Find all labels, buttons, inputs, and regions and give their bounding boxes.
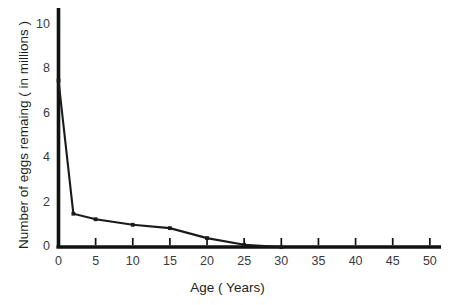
data-point-marker (242, 243, 246, 247)
chart-container: 0246810 05101520253035404550 Age ( Years… (0, 0, 455, 305)
x-axis-title: Age ( Years) (0, 280, 455, 295)
y-tick-label: 4 (28, 150, 50, 164)
series-line (59, 81, 282, 248)
x-tick-label: 0 (44, 254, 74, 268)
x-tick-label: 5 (81, 254, 111, 268)
data-point-marker (71, 212, 75, 216)
y-tick-label: 8 (28, 61, 50, 75)
x-tick-label: 35 (303, 254, 333, 268)
data-series-eggs-remaining (57, 79, 284, 249)
y-axis-title: Number of eggs remaing ( in millions ) (16, 21, 31, 249)
x-tick-label: 45 (378, 254, 408, 268)
data-point-marker (57, 79, 61, 83)
x-tick-label: 30 (266, 254, 296, 268)
x-tick-label: 25 (229, 254, 259, 268)
y-tick-label: 2 (28, 195, 50, 209)
y-tick-label: 6 (28, 106, 50, 120)
x-tick-label: 10 (118, 254, 148, 268)
data-point-marker (131, 223, 135, 227)
data-point-marker (168, 226, 172, 230)
data-point-marker (279, 245, 283, 249)
x-tick-label: 20 (192, 254, 222, 268)
y-tick-label: 10 (28, 17, 50, 31)
y-tick-label: 0 (28, 239, 50, 253)
x-tick-label: 15 (155, 254, 185, 268)
data-point-marker (205, 236, 209, 240)
axis-group (57, 8, 442, 248)
series-markers (57, 79, 284, 249)
x-tick-label: 50 (415, 254, 445, 268)
data-point-marker (94, 217, 98, 221)
x-tick-label: 40 (341, 254, 371, 268)
